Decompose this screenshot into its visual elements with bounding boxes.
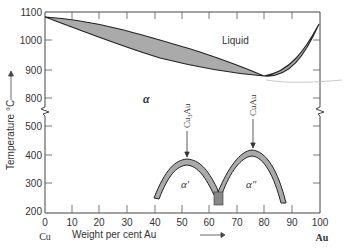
region-label-alpha-prime: α′ bbox=[181, 178, 190, 190]
y-axis-label: Temperature °C bbox=[5, 100, 16, 170]
axis-break-left bbox=[41, 107, 49, 116]
region-label-alpha-double-prime: α″ bbox=[246, 178, 257, 190]
cuau-arrow-icon bbox=[251, 119, 255, 148]
y-tick: 800 bbox=[25, 93, 42, 104]
x-axis-arrow-icon bbox=[200, 233, 225, 238]
phase-diagram: 1100 1000 900 800 500 400 300 200 0 10 2… bbox=[0, 0, 344, 252]
x-tick: 60 bbox=[203, 217, 215, 228]
y-tick: 200 bbox=[25, 206, 42, 217]
y-tick: 300 bbox=[25, 178, 42, 189]
cu3au-arrow-icon bbox=[185, 131, 189, 157]
minimum-pointer-line bbox=[266, 80, 342, 82]
x-tick-labels: 0 10 20 30 40 50 60 70 80 90 100 bbox=[42, 217, 329, 228]
x-tick: 0 bbox=[42, 217, 48, 228]
x-tick: 50 bbox=[176, 217, 188, 228]
region-label-alpha: α bbox=[143, 92, 150, 106]
y-tick: 1100 bbox=[20, 7, 42, 18]
cu-end-label: Cu bbox=[39, 231, 51, 242]
y-tick-labels: 1100 1000 900 800 500 400 300 200 bbox=[20, 7, 43, 217]
x-axis-label: Weight per cent Au bbox=[72, 229, 156, 240]
region-label-liquid: Liquid bbox=[222, 35, 249, 46]
cu3au-label: Cu3Au bbox=[182, 103, 193, 128]
cuau-label: CuAu bbox=[248, 94, 258, 116]
two-phase-gap bbox=[214, 192, 223, 205]
au-end-label: Au bbox=[316, 232, 329, 243]
y-tick: 400 bbox=[25, 150, 42, 161]
x-tick: 30 bbox=[121, 217, 133, 228]
y-axis-arrow-icon bbox=[9, 71, 14, 100]
two-phase-region-liquid-solid bbox=[45, 17, 319, 76]
x-tick: 100 bbox=[312, 217, 329, 228]
y-tick: 500 bbox=[25, 121, 42, 132]
x-tick: 40 bbox=[149, 217, 161, 228]
x-tick: 10 bbox=[66, 217, 78, 228]
x-tick: 80 bbox=[258, 217, 270, 228]
x-tick: 70 bbox=[231, 217, 243, 228]
x-tick: 90 bbox=[286, 217, 298, 228]
axis-break-right bbox=[316, 107, 324, 116]
x-tick: 20 bbox=[93, 217, 105, 228]
y-tick: 1000 bbox=[20, 35, 43, 46]
cuau-ordering-dome bbox=[218, 150, 286, 203]
y-tick: 900 bbox=[25, 65, 42, 76]
